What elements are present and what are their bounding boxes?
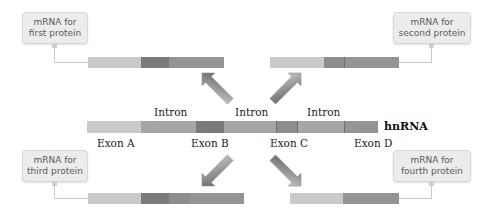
exon-d-segment	[343, 193, 399, 204]
callout-fourth-protein: mRNA for fourth protein	[393, 150, 471, 182]
exon-a-segment	[290, 193, 343, 204]
exon-a-segment	[88, 193, 141, 204]
exon-d-label: Exon D	[354, 137, 392, 149]
connector-line	[54, 198, 88, 199]
exon-b-label: Exon B	[191, 137, 229, 149]
connector-line	[431, 182, 432, 198]
exon-c-segment	[276, 121, 297, 133]
intron-label: Intron	[235, 106, 268, 118]
exon-d-segment	[190, 193, 244, 204]
hnrna-label: hnRNA	[384, 120, 428, 133]
exon-a-label: Exon A	[97, 137, 135, 149]
intron-segment	[297, 121, 344, 133]
exon-b-segment	[196, 121, 224, 133]
exon-b-segment	[141, 193, 169, 204]
intron-label: Intron	[154, 106, 187, 118]
intron-segment	[141, 121, 196, 133]
exon-d-segment	[344, 121, 378, 133]
hnrna-bar	[87, 121, 378, 133]
connector-line	[54, 182, 55, 198]
intron-label: Intron	[307, 106, 340, 118]
callout-line2: fourth protein	[394, 166, 470, 177]
callout-line2: third protein	[23, 166, 87, 177]
connector-line	[399, 198, 432, 199]
mrna-bar-third	[88, 193, 244, 204]
exon-c-label: Exon C	[270, 137, 308, 149]
callout-line1: mRNA for	[23, 155, 87, 166]
exon-a-segment	[87, 121, 141, 133]
mrna-bar-fourth	[290, 193, 399, 204]
callout-third-protein: mRNA for third protein	[22, 150, 88, 182]
callout-line1: mRNA for	[394, 155, 470, 166]
intron-segment	[224, 121, 277, 133]
exon-c-segment	[169, 193, 190, 204]
